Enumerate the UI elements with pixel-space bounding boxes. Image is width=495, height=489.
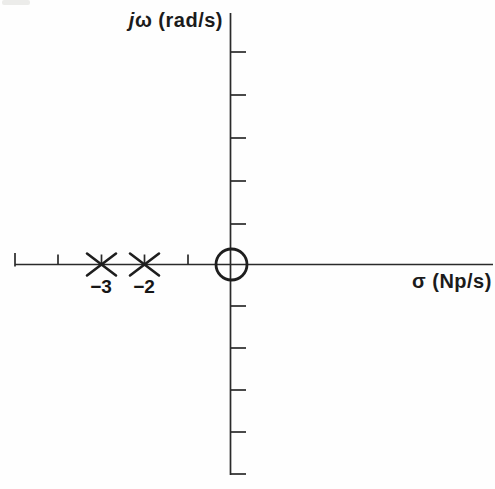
- s-plane-axes: [0, 0, 495, 489]
- pole-zero-plot: jω (rad/s) σ (Np/s) −3 −2: [0, 0, 495, 489]
- x-axis-label: σ (Np/s): [412, 270, 492, 293]
- y-axis-ticks: [231, 52, 247, 474]
- y-axis-label: jω (rad/s): [129, 9, 223, 32]
- y-axis-label-omega-units: ω (rad/s): [135, 9, 223, 31]
- pole-tick-label-minus-2: −2: [129, 276, 159, 298]
- pole-tick-label-minus-3: −3: [86, 276, 116, 298]
